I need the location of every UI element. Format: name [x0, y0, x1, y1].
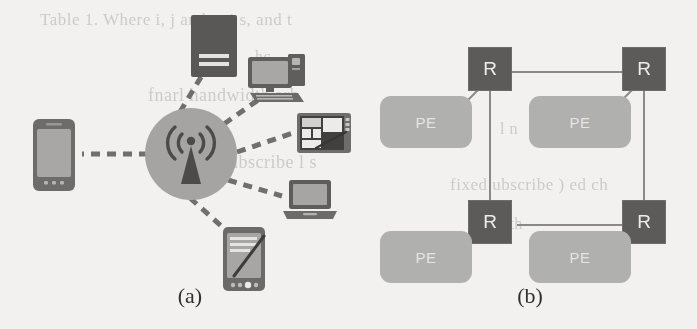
pe-bottom-left[interactable]: PE: [380, 231, 472, 283]
panel-a: (a): [0, 0, 350, 329]
router-top-left-label: R: [483, 58, 497, 80]
router-top-right-label: R: [637, 58, 651, 80]
device-server-tower[interactable]: [190, 14, 238, 78]
caption-panel-b: (b): [490, 283, 570, 309]
caption-panel-a: (a): [150, 283, 230, 309]
pe-top-right-label: PE: [569, 114, 590, 131]
laptop-icon: [281, 178, 339, 222]
router-top-right[interactable]: R: [623, 48, 665, 90]
pe-bottom-left-label: PE: [415, 249, 436, 266]
panel-b: R R R R PE PE PE PE (b): [350, 0, 697, 329]
desktop-computer-icon: [246, 52, 308, 104]
server-tower-icon: [190, 14, 238, 78]
router-bottom-left[interactable]: R: [469, 201, 511, 243]
link-hub-to-tablet: [237, 132, 296, 152]
device-smartphone[interactable]: [32, 118, 76, 192]
pe-top-left[interactable]: PE: [380, 96, 472, 148]
pe-bottom-right[interactable]: PE: [529, 231, 631, 283]
pe-top-right[interactable]: PE: [529, 96, 631, 148]
router-bottom-right-label: R: [637, 211, 651, 233]
device-desktop-computer[interactable]: [246, 52, 308, 104]
figure-root: Table 1. Where i, j and o, i s, and t hc…: [0, 0, 697, 329]
smartphone-icon: [32, 118, 76, 192]
router-top-left[interactable]: R: [469, 48, 511, 90]
wireless-antenna-icon: [145, 108, 237, 200]
device-graphics-tablet[interactable]: [296, 112, 352, 154]
router-bottom-left-label: R: [483, 211, 497, 233]
link-hub-to-server: [180, 72, 204, 112]
pe-top-left-label: PE: [415, 114, 436, 131]
device-laptop[interactable]: [281, 178, 339, 222]
graphics-tablet-icon: [296, 112, 352, 154]
pe-bottom-right-label: PE: [569, 249, 590, 266]
wireless-access-point[interactable]: [145, 108, 237, 200]
